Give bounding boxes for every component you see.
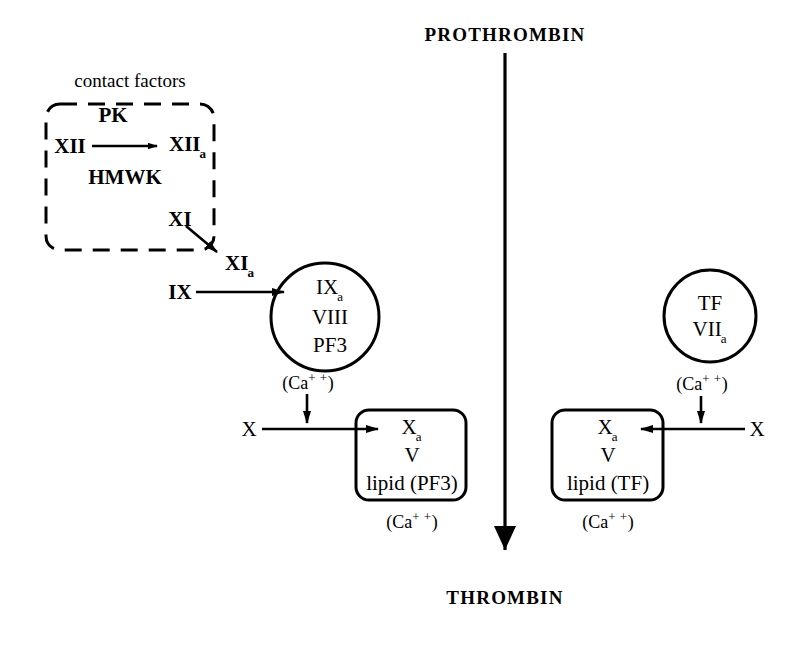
factor-xii-label: XII bbox=[54, 136, 86, 157]
contact-factors-caption: contact factors bbox=[74, 71, 185, 90]
intrinsic-circle-line1: IXa bbox=[316, 277, 344, 301]
factor-xia-text: XI bbox=[225, 251, 248, 275]
left-box-line3: lipid (PF3) bbox=[366, 473, 458, 494]
left-box-line1: Xa bbox=[402, 417, 423, 441]
factor-xia-subscript: a bbox=[247, 265, 254, 280]
factor-xiia-label: XIIa bbox=[169, 134, 207, 158]
intrinsic-circle-calcium: (Ca+ +) bbox=[282, 372, 333, 392]
hmwk-label: HMWK bbox=[88, 167, 162, 188]
left-box-calcium-charge: + + bbox=[412, 509, 431, 524]
factor-viia-text: VII bbox=[693, 317, 722, 341]
prekallikrein-label: PK bbox=[98, 105, 127, 126]
intrinsic-calcium-close: ) bbox=[328, 373, 334, 393]
extrinsic-calcium-charge: + + bbox=[702, 371, 721, 386]
left-box-calcium-close: ) bbox=[432, 512, 438, 532]
intrinsic-circle-line2: VIII bbox=[312, 307, 348, 328]
right-box-line3: lipid (TF) bbox=[567, 473, 649, 494]
factor-ixa-text: IX bbox=[316, 275, 338, 299]
intrinsic-calcium-charge: + + bbox=[308, 370, 327, 385]
extrinsic-circle-calcium: (Ca+ +) bbox=[676, 373, 727, 393]
left-factor-x-label: X bbox=[241, 419, 256, 440]
right-box-line2: V bbox=[600, 445, 615, 466]
right-factor-x-label: X bbox=[749, 419, 764, 440]
extrinsic-calcium-close: ) bbox=[722, 374, 728, 394]
factor-viia-subscript: a bbox=[721, 331, 727, 346]
thrombin-label: THROMBIN bbox=[446, 588, 563, 607]
left-box-line2: V bbox=[404, 445, 419, 466]
factor-ixa-subscript: a bbox=[337, 289, 343, 304]
factor-xiia-subscript: a bbox=[200, 146, 207, 161]
right-box-calcium-charge: + + bbox=[608, 509, 627, 524]
extrinsic-circle-line1: TF bbox=[698, 293, 723, 314]
factor-xia-label: XIa bbox=[225, 253, 255, 277]
right-box-calcium-close: ) bbox=[628, 512, 634, 532]
right-box-calcium-open: (Ca bbox=[582, 512, 608, 532]
right-factor-xa-text: X bbox=[598, 415, 613, 439]
left-box-calcium-open: (Ca bbox=[386, 512, 412, 532]
right-box-calcium: (Ca+ +) bbox=[582, 511, 633, 531]
intrinsic-calcium-open: (Ca bbox=[282, 373, 308, 393]
factor-ix-label: IX bbox=[168, 282, 191, 303]
factor-xi-label: XI bbox=[168, 209, 191, 230]
factor-xiia-text: XII bbox=[169, 132, 201, 156]
extrinsic-circle-line2: VIIa bbox=[693, 319, 728, 343]
left-factor-xa-text: X bbox=[402, 415, 417, 439]
extrinsic-calcium-open: (Ca bbox=[676, 374, 702, 394]
coagulation-cascade-diagram: PROTHROMBIN THROMBIN contact factors PK … bbox=[0, 0, 793, 648]
left-box-calcium: (Ca+ +) bbox=[386, 511, 437, 531]
diagram-vector-layer bbox=[0, 0, 793, 648]
right-box-line1: Xa bbox=[598, 417, 619, 441]
intrinsic-circle-line3: PF3 bbox=[313, 335, 347, 356]
prothrombin-label: PROTHROMBIN bbox=[425, 25, 586, 44]
